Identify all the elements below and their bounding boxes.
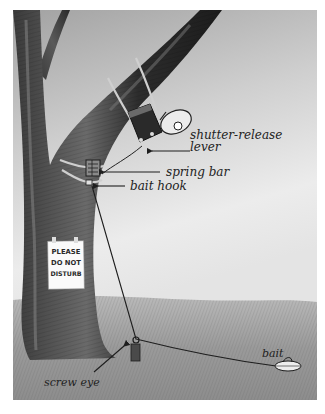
label-spring-bar: spring bar bbox=[166, 165, 230, 179]
camera-trap-illustration: PLEASE DO NOT DISTURB shutter-release le… bbox=[0, 0, 325, 414]
sign-line-3: DISTURB bbox=[50, 270, 81, 277]
label-lever: lever bbox=[190, 140, 222, 154]
illustration-canvas: PLEASE DO NOT DISTURB shutter-release le… bbox=[0, 0, 325, 414]
sign-line-1: PLEASE bbox=[52, 248, 81, 256]
do-not-disturb-sign: PLEASE DO NOT DISTURB bbox=[48, 237, 85, 289]
label-bait: bait bbox=[262, 347, 284, 360]
bait-hook bbox=[86, 180, 92, 185]
sign-line-2: DO NOT bbox=[51, 259, 81, 267]
spring-bar bbox=[86, 160, 100, 176]
label-bait-hook: bait hook bbox=[130, 179, 187, 193]
label-screw-eye: screw eye bbox=[44, 376, 100, 389]
